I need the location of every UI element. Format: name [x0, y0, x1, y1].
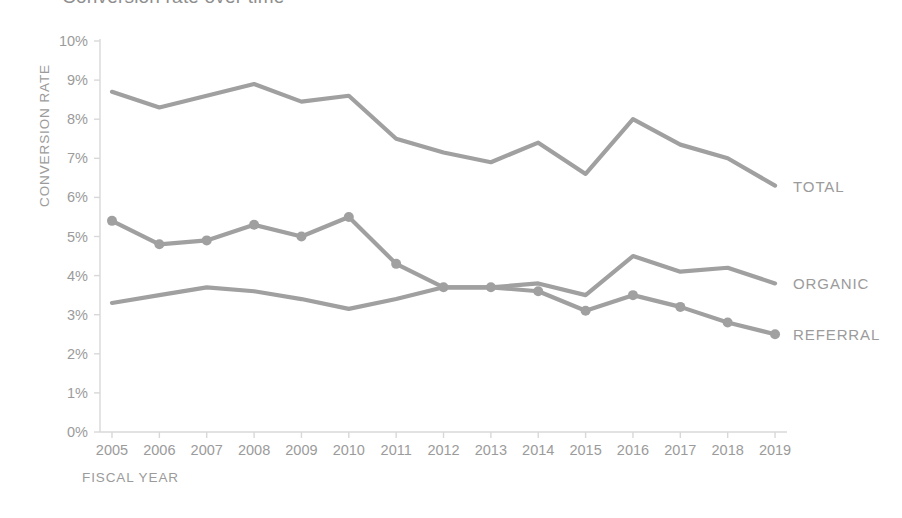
series-marker-referral — [581, 306, 591, 316]
series-line-referral — [112, 217, 775, 334]
series-marker-referral — [249, 220, 259, 230]
series-marker-referral — [391, 259, 401, 269]
series-line-total — [112, 84, 775, 186]
series-marker-referral — [344, 212, 354, 222]
series-marker-referral — [533, 286, 543, 296]
plot-area — [0, 0, 902, 518]
series-marker-referral — [770, 329, 780, 339]
series-marker-referral — [107, 216, 117, 226]
series-marker-referral — [439, 282, 449, 292]
series-layer — [107, 84, 780, 339]
conversion-rate-line-chart: Conversion rate over time CONVERSION RAT… — [0, 0, 902, 518]
series-marker-referral — [202, 235, 212, 245]
series-marker-referral — [628, 290, 638, 300]
series-marker-referral — [486, 282, 496, 292]
series-marker-referral — [296, 232, 306, 242]
series-marker-referral — [675, 302, 685, 312]
series-marker-referral — [154, 239, 164, 249]
series-marker-referral — [723, 318, 733, 328]
